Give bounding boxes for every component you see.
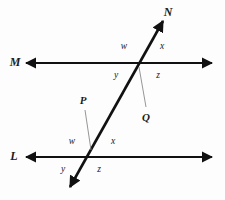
angle-label-q-w: w xyxy=(121,42,127,52)
geometry-diagram: M L N Q P w x y z w x y z xyxy=(0,0,225,200)
angle-label-p-y: y xyxy=(61,165,65,175)
line-label-n: N xyxy=(164,6,173,18)
angle-label-p-z: z xyxy=(97,165,101,175)
point-label-p: P xyxy=(80,95,87,106)
angle-label-p-w: w xyxy=(69,137,75,147)
leader-line-p xyxy=(85,110,91,150)
line-label-m: M xyxy=(10,56,21,68)
angle-label-q-z: z xyxy=(156,71,160,81)
diagram-canvas xyxy=(0,0,225,200)
angle-label-q-x: x xyxy=(160,42,164,52)
point-label-q: Q xyxy=(142,112,150,123)
angle-label-q-y: y xyxy=(114,71,118,81)
leader-line-q xyxy=(139,67,146,107)
line-label-l: L xyxy=(10,150,17,162)
angle-label-p-x: x xyxy=(111,137,115,147)
